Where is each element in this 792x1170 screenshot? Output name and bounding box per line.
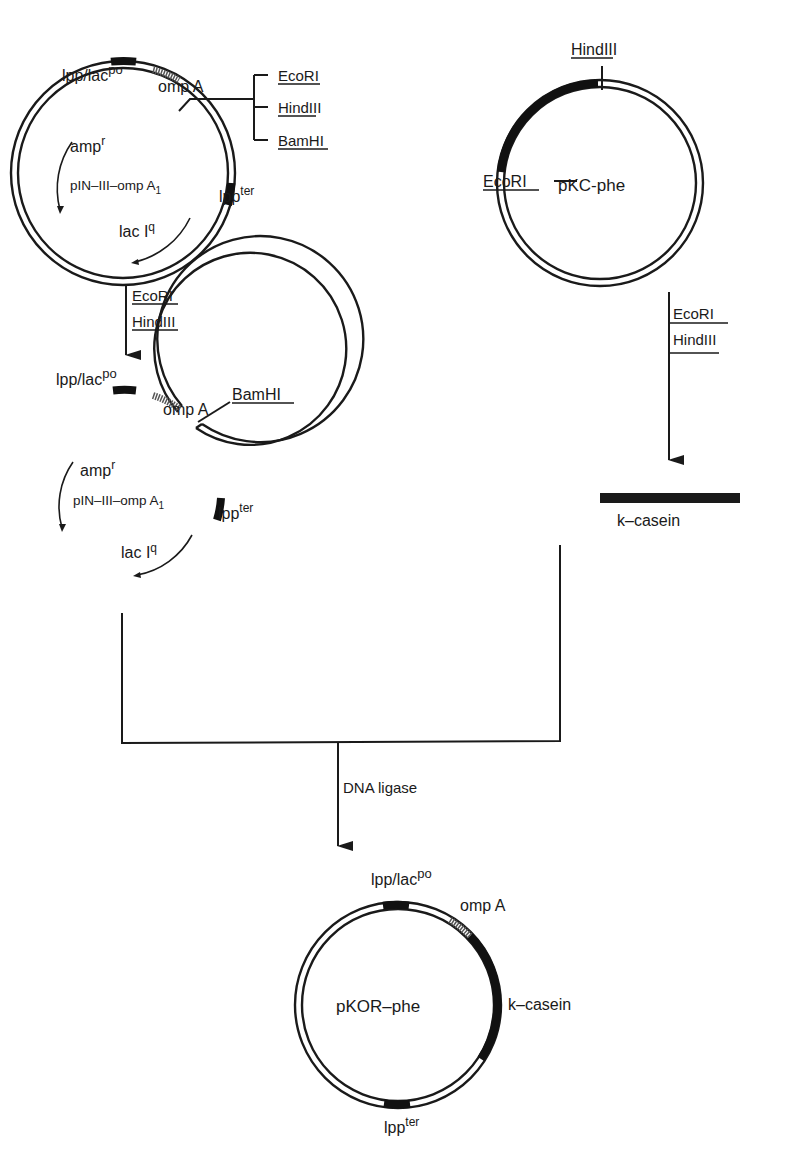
plasmid-4-terminator-segment — [384, 1104, 410, 1105]
plasmid-pin-iii-ompa1: lpp/lacpo omp A ampr pIN–III–omp A1 lppt… — [11, 61, 328, 285]
cut-vector-label-promoter: lpp/lacpo — [56, 366, 117, 388]
label-ompa: omp A — [158, 78, 204, 95]
kcasein-fragment-bar — [600, 493, 740, 503]
plasmid-4-kcasein-insert — [470, 936, 497, 1059]
polylinker-bracket — [254, 75, 268, 140]
amp-arrow-head — [57, 206, 64, 214]
cut-vector-amp-arrow — [59, 462, 73, 528]
polylinker-site-ecori: EcoRI — [278, 67, 319, 84]
cut-vector-label-ompa: omp A — [163, 401, 209, 418]
site-hindiii: HindIII — [571, 41, 617, 58]
ligation-step: DNA ligase — [122, 545, 560, 846]
cut-vector-bamhi-end — [196, 424, 202, 428]
kcasein-fragment: k–casein — [600, 493, 740, 529]
site-ecori: EcoRI — [483, 173, 527, 190]
plasmid-4-promoter-segment — [383, 905, 409, 906]
plasmid-2-kcasein-insert — [501, 84, 598, 173]
plasmid-1-name: pIN–III–omp A1 — [70, 178, 162, 196]
merge-connector — [122, 545, 560, 743]
cut-vector-promoter-segment — [113, 390, 136, 391]
kcasein-fragment-label: k–casein — [617, 512, 680, 529]
plasmid-4-label-lppter: lppter — [384, 1115, 419, 1136]
laci-arrow-head — [131, 259, 139, 265]
plasmid-4-label-ompa: omp A — [460, 897, 506, 914]
label-laciq: lac Iq — [119, 220, 155, 240]
cut-vector-label-lppter: lppter — [218, 501, 253, 522]
cut-vector-label-ampr: ampr — [80, 458, 115, 479]
plasmid-pkor-phe: lpp/lacpo omp A k–casein pKOR–phe lppter — [295, 866, 571, 1136]
plasmid-4-name: pKOR–phe — [336, 997, 420, 1016]
cut-vector-laci-arrow-head — [133, 572, 141, 578]
label-lppter: lppter — [219, 184, 254, 205]
cut-vector-bamhi: BamHI — [232, 386, 281, 403]
digest-right-ecori: EcoRI — [673, 305, 714, 322]
cut-vector-name: pIN–III–omp A1 — [73, 493, 165, 511]
plasmid-2-name: pKC-phe — [558, 176, 625, 195]
polylinker-site-bamhi: BamHI — [278, 132, 324, 149]
cut-vector: BamHI lpp/lacpo omp A ampr pIN–III–omp A… — [56, 236, 363, 578]
plasmid-pkc-phe: HindIII EcoRI pKC-phe — [483, 41, 703, 286]
digest-right-hindiii: HindIII — [673, 331, 716, 348]
plasmid-4-label-kcasein: k–casein — [508, 996, 571, 1013]
plasmid-construction-diagram: lpp/lacpo omp A ampr pIN–III–omp A1 lppt… — [0, 0, 792, 1170]
cut-vector-label-laciq: lac Iq — [121, 541, 157, 561]
digest-left-hindiii: HindIII — [132, 313, 175, 330]
ligation-label: DNA ligase — [343, 779, 417, 796]
label-ampr: ampr — [70, 134, 105, 155]
polylinker-site-hindiii: HindIII — [278, 99, 321, 116]
cut-vector-amp-arrow-head — [59, 524, 66, 532]
plasmid-4-label-promoter: lpp/lacpo — [371, 866, 432, 888]
digest-arrow-right: EcoRI HindIII — [669, 292, 728, 460]
